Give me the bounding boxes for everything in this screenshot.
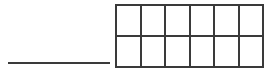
grid-cell (165, 36, 190, 67)
grid-cell (190, 5, 215, 36)
grid-cell (116, 36, 141, 67)
figure-root: Bar model: single segment beside a two-r… (0, 0, 274, 72)
grid-cell (116, 5, 141, 36)
grid-cell (141, 5, 166, 36)
grid-cell (239, 36, 264, 67)
grid-cell (214, 5, 239, 36)
figure-canvas (0, 0, 274, 72)
grid-cell (165, 5, 190, 36)
grid-cell (190, 36, 215, 67)
grid-cell (141, 36, 166, 67)
grid-cell (239, 5, 264, 36)
grid-group (116, 5, 263, 67)
grid-cell (214, 36, 239, 67)
